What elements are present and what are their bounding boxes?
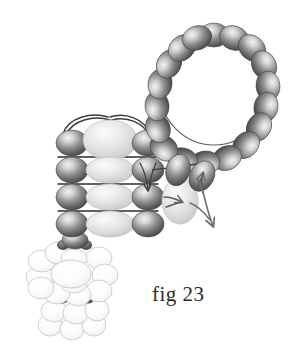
grid-row (56, 157, 164, 183)
bead-loop-ring (142, 22, 282, 177)
figure-caption: fig 23 (152, 282, 205, 307)
flower-center-bead (51, 260, 91, 288)
beadwork-diagram-svg (0, 0, 302, 349)
flower-bead-cluster (26, 231, 118, 340)
grid-row (56, 211, 164, 237)
figure-canvas: fig 23 (0, 0, 302, 349)
